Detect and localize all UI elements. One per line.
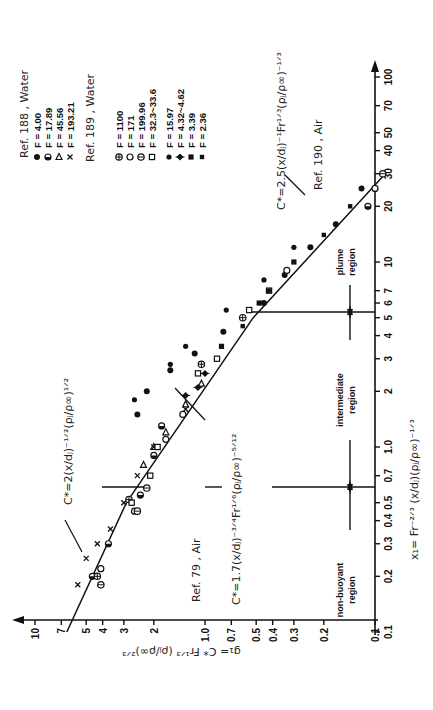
legend-label: F = 4.32~4.62 bbox=[175, 89, 186, 148]
legend-entry: F = 17.89 bbox=[43, 108, 54, 160]
legend-items: F = 4.00F = 17.89F = 45.56F = 193.21F = … bbox=[32, 89, 208, 161]
legend-label: F = 199.96 bbox=[136, 102, 147, 148]
x1-tick-label: 70 bbox=[383, 100, 394, 112]
x1-tick-label: 10 bbox=[383, 256, 394, 268]
series-filled-dot bbox=[132, 245, 297, 403]
x1-tick-label: 0.3 bbox=[383, 536, 394, 550]
region-int-label: intermediate bbox=[335, 373, 345, 427]
ref79-label: Ref. 79 , Air bbox=[190, 538, 203, 602]
g1-tick-label: 4 bbox=[98, 628, 109, 634]
x1-tick-label: 2 bbox=[383, 388, 394, 394]
g1-axis-ticks: 0.10.20.30.40.50.71.02345710 bbox=[30, 620, 381, 642]
x1-tick-label: 100 bbox=[383, 68, 394, 85]
x1-tick-label: 50 bbox=[383, 127, 394, 139]
legend-label: F = 45.56 bbox=[54, 108, 65, 148]
g1-tick-label: 0.3 bbox=[289, 628, 300, 642]
x1-tick-label: 4 bbox=[383, 332, 394, 338]
x1-tick-label: 0.5 bbox=[383, 495, 394, 509]
legend-entry: F = 4.32~4.62 bbox=[175, 89, 186, 161]
x1-tick-label: 7 bbox=[383, 287, 394, 293]
g1-tick-label: 3 bbox=[119, 628, 130, 634]
x1-tick-label: 5 bbox=[383, 314, 394, 320]
series-circle-plus bbox=[94, 314, 246, 579]
legend-entry: F = 1100 bbox=[114, 111, 125, 160]
x1-tick-label: 20 bbox=[383, 200, 394, 212]
x1-tick-label: 40 bbox=[383, 145, 394, 157]
region-pl-label2: region bbox=[347, 248, 357, 276]
region-labels: non-buoyant region intermediate region p… bbox=[335, 248, 357, 617]
legend-entry: F = 2.36 bbox=[197, 113, 208, 159]
legend-label: F = 193.21 bbox=[65, 102, 76, 148]
eq-non-buoyant: C*=2(x/dⱼ)⁻¹ᐟ²(ρⱼ/ρ∞)¹ᐟ² bbox=[62, 378, 75, 505]
x1-tick-label: 0.2 bbox=[383, 569, 394, 583]
ref190-label: Ref. 190 , Air bbox=[312, 119, 325, 190]
x1-axis-title: x₁= Fr⁻²ᐟ³ (x/dⱼ)(ρⱼ/ρ∞)⁻¹ᐟ³ bbox=[408, 419, 421, 560]
legend-label: F = 3.39 bbox=[186, 113, 197, 148]
g1-tick-label: 7 bbox=[56, 628, 67, 634]
legend-label: F = 32.3~33.6 bbox=[147, 89, 158, 148]
legend-entry: F = 171 bbox=[125, 115, 136, 160]
series-open-square bbox=[129, 288, 272, 505]
eq-plume: C*=2.5(x/dⱼ)⁻¹Fr¹ᐟ³(ρⱼ/ρ∞)⁻¹ᐟ³ bbox=[275, 52, 288, 210]
g1-tick-label: 1.0 bbox=[200, 628, 211, 642]
x1-axis-ticks: 0.10.20.30.40.50.71.02345671020304050701… bbox=[375, 68, 394, 639]
eq-intermediate: C*=1.7(x/dⱼ)⁻³ᐟ⁴Fr¹ᐟ⁶(ρⱼ/ρ∞)⁻⁵ᐟ¹² bbox=[230, 434, 243, 605]
legend-entry: F = 193.21 bbox=[65, 102, 76, 160]
region-nb-label: non-buoyant bbox=[335, 563, 345, 618]
g1-tick-label: 0.4 bbox=[268, 628, 279, 642]
fit-line-non-buoyant bbox=[67, 503, 127, 632]
legend-entry: F = 45.56 bbox=[54, 108, 65, 160]
legend-label: F = 4.00 bbox=[32, 113, 43, 148]
leader-lines bbox=[65, 175, 305, 552]
legend-entry: F = 4.00 bbox=[32, 113, 43, 160]
ref189-title: Ref. 189 , Water bbox=[84, 74, 97, 162]
x1-tick-label: 0.4 bbox=[383, 513, 394, 527]
x1-tick-label: 1.0 bbox=[383, 440, 394, 454]
x1-tick-label: 6 bbox=[383, 300, 394, 306]
g1-tick-label: 10 bbox=[30, 628, 41, 640]
x1-tick-label: 0.1 bbox=[383, 625, 394, 639]
legend-label: F = 17.89 bbox=[43, 108, 54, 148]
ref188-title: Ref. 188 , Water bbox=[18, 70, 31, 158]
g1-tick-label: 2 bbox=[149, 628, 160, 634]
legend-label: F = 1100 bbox=[114, 111, 125, 148]
legend-entry: F = 3.39 bbox=[186, 113, 197, 160]
legend-label: F = 2.36 bbox=[197, 113, 208, 148]
leader-pl bbox=[285, 175, 305, 195]
legend-entry: F = 199.96 bbox=[136, 102, 147, 160]
g1-tick-label: 5 bbox=[81, 628, 92, 634]
x1-axis-arrow-icon bbox=[371, 60, 379, 72]
legend-entry: F = 15.97 bbox=[164, 108, 175, 160]
x1-tick-label: 3 bbox=[383, 356, 394, 362]
series-triangle bbox=[141, 380, 205, 467]
g1-tick-label: 0.2 bbox=[319, 628, 330, 642]
fit-line-plume bbox=[253, 174, 385, 318]
legend-entry: F = 32.3~33.6 bbox=[147, 89, 158, 160]
chart: 0.10.20.30.40.50.71.02345671020304050701… bbox=[0, 0, 433, 710]
leader-nb bbox=[65, 520, 82, 552]
g1-axis-arrow-icon bbox=[12, 616, 24, 624]
g1-axis-title: g₁= C* Fr¹ᐟ³ (ρⱼ/ρ∞)²ᐟ³ bbox=[122, 645, 241, 658]
legend: Ref. 188 , Water Ref. 189 , Water F = 4.… bbox=[18, 70, 208, 162]
region-int-label2: region bbox=[347, 386, 357, 414]
series-filled-circle bbox=[134, 185, 364, 417]
legend-label: F = 15.97 bbox=[164, 108, 175, 148]
g1-tick-label: 0.1 bbox=[370, 628, 381, 642]
g1-tick-label: 0.5 bbox=[251, 628, 262, 642]
g1-tick-label: 0.7 bbox=[226, 628, 237, 642]
region-pl-label: plume bbox=[335, 249, 345, 276]
region-nb-label2: region bbox=[347, 576, 357, 604]
legend-label: F = 171 bbox=[125, 115, 136, 148]
x1-tick-label: 0.7 bbox=[383, 468, 394, 482]
